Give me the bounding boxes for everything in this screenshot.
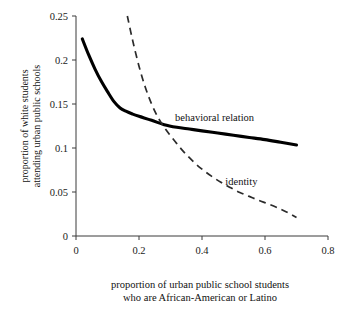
x-tick-label: 0.4 — [195, 245, 209, 256]
x-axis-title-line2: who are African-American or Latino — [123, 292, 277, 303]
y-axis-title-line1: proportion of white students — [19, 69, 30, 182]
y-tick-label: 0.2 — [55, 55, 68, 66]
x-tick-label: 0.6 — [258, 245, 271, 256]
x-tick-label: 0 — [73, 245, 78, 256]
y-axis-ticks: 00.050.10.150.20.25 — [50, 11, 76, 242]
chart-plot: 00.050.10.150.20.25 00.20.40.60.8 behavi… — [0, 0, 350, 311]
series-label-identity: identity — [225, 176, 258, 187]
y-tick-label: 0.1 — [55, 143, 68, 154]
y-tick-label: 0.15 — [50, 99, 68, 110]
series-label-behavioral-relation: behavioral relation — [175, 112, 255, 123]
series-behavioral-relation — [82, 39, 296, 145]
figure-container: 00.050.10.150.20.25 00.20.40.60.8 behavi… — [0, 0, 350, 311]
x-axis-ticks: 00.20.40.60.8 — [73, 236, 334, 256]
x-axis-title-line1: proportion of urban public school studen… — [111, 279, 289, 290]
y-tick-label: 0.05 — [50, 187, 68, 198]
x-tick-label: 0.2 — [132, 245, 145, 256]
y-axis-title-line2: attending urban public schools — [31, 65, 42, 188]
y-tick-label: 0.25 — [50, 11, 68, 22]
x-tick-label: 0.8 — [321, 245, 334, 256]
y-tick-label: 0 — [63, 231, 68, 242]
